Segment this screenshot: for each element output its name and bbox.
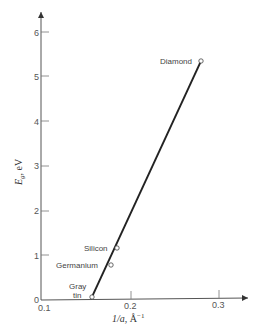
x-tick-0.1: 0.1	[38, 303, 51, 313]
y-tick-5: 5	[34, 72, 39, 82]
x-tick-0.2: 0.2	[124, 301, 137, 311]
label-gray: Gray	[69, 282, 86, 291]
label-silicon: Silicon	[84, 244, 108, 253]
y-tick-1: 1	[34, 251, 39, 261]
fit-line	[91, 61, 201, 299]
y-axis-label: Eg, eV	[13, 158, 26, 186]
y-tick-2: 2	[34, 206, 39, 216]
band-gap-chart: 0 1 2 3 4 5 6 0.1 0.2 0.3 1/a, Å−1 Eg, e…	[0, 0, 258, 332]
point-diamond	[199, 59, 203, 63]
y-ticks	[41, 32, 49, 255]
x-ticks	[131, 290, 219, 299]
y-tick-3: 3	[34, 161, 39, 171]
point-germanium	[109, 263, 113, 267]
x-tick-0.3: 0.3	[212, 300, 225, 310]
label-germanium: Germanium	[56, 261, 98, 270]
x-axis-label: 1/a, Å−1	[112, 312, 145, 324]
point-gray-tin	[90, 295, 94, 299]
label-tin: tin	[73, 291, 81, 300]
y-tick-4: 4	[34, 117, 39, 127]
label-diamond: Diamond	[160, 57, 192, 66]
y-tick-6: 6	[34, 28, 39, 38]
point-silicon	[115, 246, 119, 250]
